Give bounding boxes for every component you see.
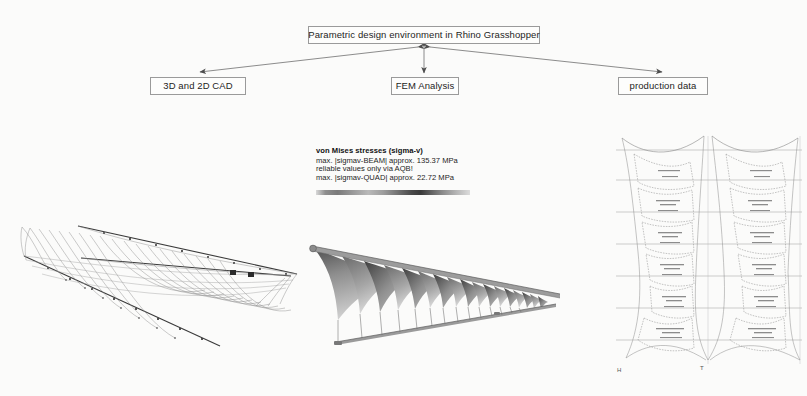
- reference-lines: [616, 150, 802, 340]
- outer-edge-curves: [622, 136, 800, 360]
- stress-colorbar: [316, 190, 470, 195]
- marker-t: T: [700, 365, 704, 371]
- cad-wireframe-svg: [8, 214, 308, 354]
- box-fem-analysis[interactable]: FEM Analysis: [391, 77, 459, 95]
- box-parametric-design-environment[interactable]: Parametric design environment in Rhino G…: [308, 26, 540, 44]
- cad-detail-blocks: [230, 270, 254, 277]
- panel-top-curves: [622, 136, 798, 152]
- figure-fem-render: [308, 236, 574, 362]
- box-production-data[interactable]: production data: [618, 77, 708, 95]
- legend-line-quad: max. |sigmav-QUAD| approx. 22.72 MPa: [316, 174, 486, 183]
- arrow-top-to-cad: [200, 47, 418, 72]
- von-mises-legend: von Mises stresses (sigma-v) max. |sigma…: [316, 146, 486, 195]
- panel-column-right: [726, 154, 786, 351]
- fem-panel-series: [342, 256, 548, 314]
- production-drawing-svg: [612, 132, 804, 380]
- box-3d-2d-cad[interactable]: 3D and 2D CAD: [150, 77, 246, 95]
- diagram-page: Parametric design environment in Rhino G…: [0, 0, 807, 396]
- figure-production-drawing: [612, 132, 804, 380]
- panel-column-left: [634, 154, 694, 351]
- legend-title: von Mises stresses (sigma-v): [316, 146, 486, 155]
- fem-bottom-beam: [336, 304, 556, 345]
- figure-cad-wireframe: [8, 214, 308, 354]
- arrow-top-to-production: [430, 47, 662, 72]
- marker-h: H: [617, 367, 621, 373]
- fem-render-svg: [308, 236, 574, 362]
